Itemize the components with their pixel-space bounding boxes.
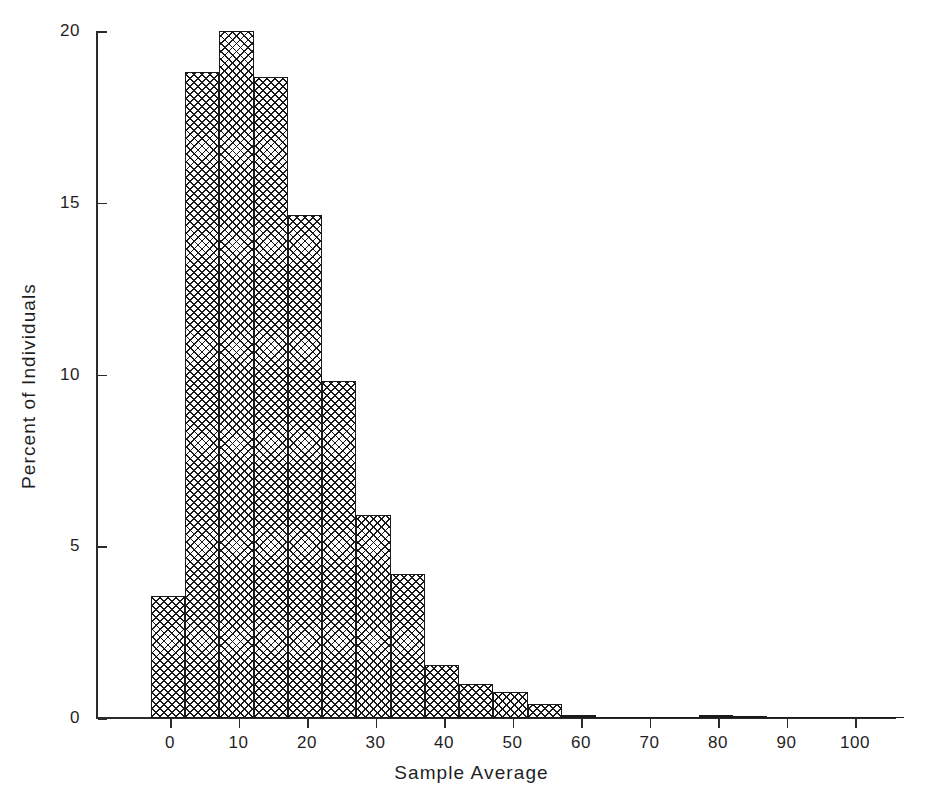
histogram-bar <box>802 717 836 718</box>
histogram-bar <box>254 77 288 718</box>
y-axis-tick-label: 10 <box>40 365 80 385</box>
y-axis-title: Percent of Individuals <box>18 226 40 546</box>
histogram-bar <box>185 72 219 718</box>
x-axis-tick <box>513 719 515 728</box>
histogram-bar <box>665 717 699 718</box>
histogram-bar <box>288 215 322 718</box>
y-axis-tick-label: 15 <box>40 193 80 213</box>
y-axis-tick <box>98 546 107 548</box>
histogram-figure: 05101520 0102030405060708090100 Sample A… <box>0 0 943 809</box>
x-axis-tick <box>307 719 309 728</box>
histogram-bar <box>493 692 527 718</box>
histogram-bar <box>562 715 596 718</box>
x-axis-tick <box>170 719 172 728</box>
histogram-bar <box>870 717 904 718</box>
plot-area: 05101520 0102030405060708090100 Sample A… <box>0 0 943 809</box>
histogram-bar <box>836 717 870 718</box>
x-axis-tick <box>239 719 241 728</box>
x-axis-tick-label: 100 <box>825 733 885 753</box>
x-axis-tick-label: 60 <box>551 733 611 753</box>
histogram-bar <box>528 704 562 718</box>
x-axis-tick-label: 50 <box>483 733 543 753</box>
x-axis-tick-label: 10 <box>209 733 269 753</box>
x-axis-tick <box>444 719 446 728</box>
histogram-bar <box>425 665 459 718</box>
x-axis-title: Sample Average <box>0 762 943 784</box>
histogram-bar <box>356 515 390 718</box>
x-axis-tick <box>718 719 720 728</box>
histogram-bar <box>219 31 253 718</box>
x-axis-tick <box>855 719 857 728</box>
histogram-bar <box>151 596 185 718</box>
y-axis-tick-label: 20 <box>40 21 80 41</box>
histogram-bar <box>733 716 767 718</box>
histogram-bar <box>322 381 356 718</box>
x-axis-tick <box>376 719 378 728</box>
y-axis-tick <box>98 375 107 377</box>
bar-series <box>0 0 943 809</box>
x-axis-tick-label: 70 <box>620 733 680 753</box>
x-axis-tick-label: 20 <box>277 733 337 753</box>
x-axis-tick-label: 0 <box>140 733 200 753</box>
x-axis-tick <box>581 719 583 728</box>
x-axis-tick <box>787 719 789 728</box>
histogram-bar <box>767 717 801 718</box>
x-axis-tick-label: 90 <box>757 733 817 753</box>
histogram-bar <box>459 684 493 718</box>
y-axis-tick-label: 0 <box>40 708 80 728</box>
y-axis-tick <box>98 31 107 33</box>
histogram-bar <box>699 715 733 718</box>
x-axis-tick-label: 40 <box>414 733 474 753</box>
histogram-bar <box>391 574 425 718</box>
y-axis-tick <box>98 203 107 205</box>
y-axis-tick-label: 5 <box>40 536 80 556</box>
x-axis-tick-label: 80 <box>688 733 748 753</box>
histogram-bar <box>630 717 664 718</box>
y-axis-tick <box>98 718 107 720</box>
histogram-bar <box>596 717 630 718</box>
x-axis-tick-label: 30 <box>346 733 406 753</box>
x-axis-tick <box>650 719 652 728</box>
